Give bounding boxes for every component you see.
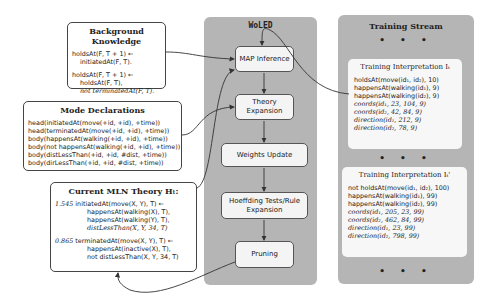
fact: not holdsAt(move(id₁, id₂), 100) [348, 184, 461, 192]
woled-title: WoLED [204, 21, 317, 30]
fact: happensAt(walking(id₂), 99) [348, 200, 461, 208]
mode-declarations-title: Mode Declarations [28, 105, 177, 115]
stream-dots-bottom: • • • [338, 266, 474, 276]
rule1-body: happensAt(walking(Y), T), [55, 216, 192, 224]
fact: happensAt(walking(id₁), 9) [354, 84, 456, 92]
stream-dots-top: • • • [338, 35, 474, 45]
fact: direction(id₂, 798, 99) [348, 232, 461, 240]
background-knowledge-box: Background Knowledge holdsAt(F, T + 1) ←… [67, 22, 166, 89]
interpretation-title: Training Interpretation Iₜ' [348, 171, 461, 179]
mode-line: head(initiatedAt(move(+id, +id), +time)) [28, 119, 177, 127]
fact: happensAt(walking(id₂), 9) [354, 92, 456, 100]
fact: coords(id₁, 23, 104, 9) [354, 100, 456, 108]
mln-theory-title: Current MLN Theory Hₜ: [55, 186, 192, 196]
rule1-weight: 1.545 [55, 200, 73, 208]
fact: coords(id₁, 205, 23, 99) [348, 208, 461, 216]
training-interpretation-2: Training Interpretation Iₜ' not holdsAt(… [342, 167, 467, 257]
fact: direction(id₁, 23, 99) [348, 224, 461, 232]
woled-panel: WoLED MAP Inference Theory Expansion Wei… [204, 17, 317, 285]
mode-line: body(happensAt(walking(+id, +id), +time)… [28, 135, 177, 143]
mln-theory-box: Current MLN Theory Hₜ: 1.545 initiatedAt… [50, 182, 197, 272]
bk-rule2-body2: not terminatedAt(F, T). [72, 87, 161, 95]
rule1-head: initiatedAt(move(X, Y), T) ← [75, 200, 164, 208]
rule2-body: not distLessThan(X, Y, 34, T) [55, 253, 192, 261]
stream-dots-middle: • • • [338, 153, 474, 163]
map-inference-step: MAP Inference [235, 46, 294, 72]
rule2-head: terminatedAt(move(X, Y), T) ← [75, 237, 173, 245]
fact: coords(id₂, 42, 84, 9) [354, 108, 456, 116]
interpretation-title: Training Interpretation Iₜ [354, 63, 456, 71]
weights-update-step: Weights Update [221, 143, 308, 167]
fact: direction(id₂, 78, 9) [354, 124, 456, 132]
rule2-weight: 0.865 [55, 237, 73, 245]
rule1-body: happensAt(walking(X), T), [55, 208, 192, 216]
bk-rule1-body: initiatedAt(F, T). [72, 58, 161, 66]
fact: coords(id₂, 462, 84, 99) [348, 216, 461, 224]
fact: happensAt(walking(id₁), 99) [348, 192, 461, 200]
mode-line: body(dirLessThan(+id, +id, #dist, +time)… [28, 159, 177, 167]
rule1-body: distLessThan(X, Y, 34, T) [55, 224, 192, 232]
mode-line: body(distLessThan(+id, +id, #dist, +time… [28, 151, 177, 159]
bk-rule1-head: holdsAt(F, T + 1) ← [72, 50, 161, 58]
training-stream-title: Training Stream [338, 21, 474, 31]
fact: direction(id₁, 212, 9) [354, 116, 456, 124]
mode-line: head(terminatedAt(move(+id, +id), +time)… [28, 127, 177, 135]
training-stream-panel: Training Stream • • • Training Interpret… [338, 15, 474, 284]
bk-rule2-body1: holdsAt(F, T), [72, 79, 161, 87]
mode-declarations-box: Mode Declarations head(initiatedAt(move(… [23, 101, 182, 171]
theory-expansion-step: Theory Expansion [235, 94, 294, 120]
training-interpretation-1: Training Interpretation Iₜ holdsAt(move(… [348, 59, 462, 149]
background-knowledge-title: Background Knowledge [72, 26, 161, 46]
pruning-step: Pruning [235, 241, 294, 268]
bk-rule2-head: holdsAt(F, T + 1) ← [72, 71, 161, 79]
mode-line: body(not happensAt(walking(+id, +id), +t… [28, 143, 177, 151]
hoeffding-tests-step: Hoeffding Tests/Rule Expansion [221, 192, 308, 219]
fact: holdsAt(move(id₁, id₂), 10) [354, 76, 456, 84]
rule2-body: happensAt(inactive(X), T), [55, 245, 192, 253]
